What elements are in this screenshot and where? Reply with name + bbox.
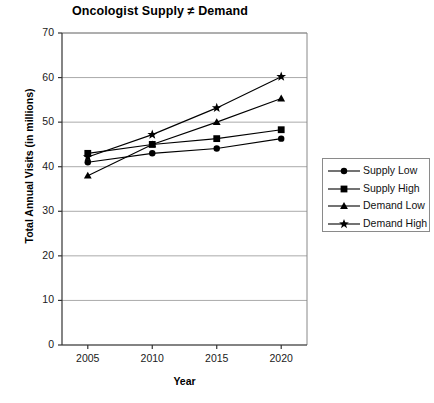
data-point-square-2015	[213, 135, 220, 142]
legend-marker-square-icon	[327, 180, 361, 197]
y-tick-label-10: 10	[24, 293, 54, 305]
y-tick-label-50: 50	[24, 115, 54, 127]
series-line	[88, 77, 281, 157]
series-line	[88, 99, 281, 176]
data-point-circle-2020	[278, 135, 284, 141]
chart-legend: Supply LowSupply HighDemand LowDemand Hi…	[322, 158, 430, 232]
data-point-triangle-2005	[84, 172, 92, 179]
legend-marker-circle-icon	[327, 162, 361, 179]
legend-marker-glyph	[339, 218, 349, 227]
legend-marker-star-icon	[327, 215, 361, 232]
x-tick-label-2015: 2015	[187, 352, 247, 364]
y-tick-label-20: 20	[24, 249, 54, 261]
legend-label: Demand Low	[363, 199, 425, 211]
data-point-star-2010	[147, 130, 157, 139]
chart-figure: Oncologist Supply ≠ Demand Total Annual …	[0, 0, 434, 403]
series-demand-high	[83, 72, 286, 161]
y-tick-label-40: 40	[24, 160, 54, 172]
y-tick-label-70: 70	[24, 26, 54, 38]
legend-label: Supply High	[363, 182, 420, 194]
legend-marker-glyph	[341, 168, 347, 174]
series-supply-low	[85, 135, 285, 165]
legend-item-demand-low[interactable]: Demand Low	[327, 197, 427, 214]
series-line	[88, 139, 281, 163]
legend-item-demand-high[interactable]: Demand High	[327, 215, 427, 232]
legend-marker-glyph	[341, 185, 348, 192]
x-axis-title: Year	[62, 375, 307, 387]
y-tick-label-60: 60	[24, 71, 54, 83]
y-tick-label-0: 0	[24, 338, 54, 350]
data-point-square-2020	[278, 126, 285, 133]
series-demand-low	[84, 95, 285, 179]
x-tick-label-2010: 2010	[122, 352, 182, 364]
data-point-star-2020	[276, 72, 286, 81]
legend-label: Demand High	[363, 217, 427, 229]
legend-label: Supply Low	[363, 164, 417, 176]
legend-item-supply-high[interactable]: Supply High	[327, 180, 427, 197]
y-tick-label-30: 30	[24, 204, 54, 216]
series-supply-high	[84, 126, 284, 156]
data-point-star-2015	[212, 103, 222, 112]
data-point-circle-2015	[214, 145, 220, 151]
x-tick-label-2020: 2020	[251, 352, 311, 364]
x-tick-label-2005: 2005	[58, 352, 118, 364]
legend-item-supply-low[interactable]: Supply Low	[327, 162, 427, 179]
legend-marker-triangle-icon	[327, 197, 361, 214]
data-point-triangle-2020	[277, 95, 285, 102]
data-point-circle-2010	[149, 150, 155, 156]
